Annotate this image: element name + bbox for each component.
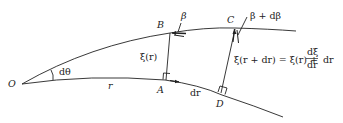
fraction-numerator: dξ [307,46,318,57]
angle-arc [51,70,53,80]
fraction-denominator: dr [307,59,318,70]
point-o-label: O [8,78,16,89]
arrowhead-c [233,29,237,34]
arrowhead-a [175,80,179,84]
beta-plus-leader [238,17,247,35]
beta-vector-c2 [237,30,239,43]
arrowhead-b [172,31,176,35]
beta-label: β [180,10,187,21]
beta-vector-b2 [174,35,184,37]
point-a-label: A [156,84,164,95]
xi-equation-lhs: ξ(r + dr) = ξ(r) + [234,54,318,65]
radius-label: r [108,80,114,91]
point-c-label: C [227,14,235,25]
point-d-label: D [215,98,224,109]
xi-r-label: ξ(r) [140,51,157,62]
angle-label: dθ [59,66,71,77]
point-b-label: B [156,19,164,30]
ray-geometry-diagram: O dθ r A dr D B β C β + dβ ξ(r) ξ(r + dr… [0,0,343,123]
lower-ray-curve [22,78,283,117]
dr-label: dr [190,87,201,98]
beta-plus-label: β + dβ [250,10,282,21]
beta-leader [178,23,181,32]
xi-equation-tail: dr [323,54,334,65]
